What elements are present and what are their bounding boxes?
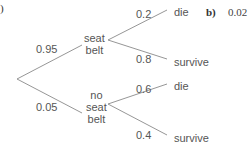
node-no-seat-belt: no seat belt	[86, 89, 107, 125]
node-text: seat	[86, 101, 107, 113]
prob-no-seat-belt: 0.05	[36, 101, 57, 113]
part-b-answer: 0.02	[228, 6, 247, 18]
node-seat-belt: seat belt	[84, 32, 105, 56]
outcome-seatbelt-die: die	[174, 6, 189, 18]
prob-seatbelt-survive: 0.8	[136, 53, 151, 65]
tree-diagram-lines	[0, 0, 248, 145]
prob-noseatbelt-die: 0.6	[136, 83, 151, 95]
prob-noseatbelt-survive: 0.4	[136, 129, 151, 141]
prob-seatbelt-die: 0.2	[136, 8, 151, 20]
outcome-noseatbelt-survive: survive	[174, 132, 209, 144]
node-text: belt	[84, 44, 105, 56]
outcome-seatbelt-survive: survive	[174, 56, 209, 68]
node-text: seat	[84, 32, 105, 44]
part-b-label: b)	[206, 6, 216, 18]
outcome-noseatbelt-die: die	[174, 80, 189, 92]
prob-seat-belt: 0.95	[36, 43, 57, 55]
node-text: no	[86, 89, 107, 101]
node-text: belt	[86, 113, 107, 125]
